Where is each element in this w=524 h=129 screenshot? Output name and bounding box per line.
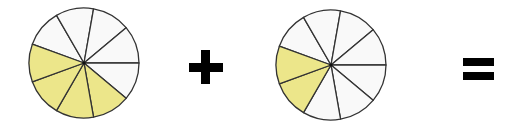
pie-center-dot (329, 63, 332, 66)
fraction-pie-4-ninths (29, 8, 139, 118)
fraction-pie-2-ninths (276, 10, 386, 120)
pie-center-dot (82, 61, 85, 64)
equals-sign-icon (463, 58, 494, 80)
plus-sign-icon (189, 50, 223, 84)
fraction-addition-diagram (0, 0, 524, 129)
